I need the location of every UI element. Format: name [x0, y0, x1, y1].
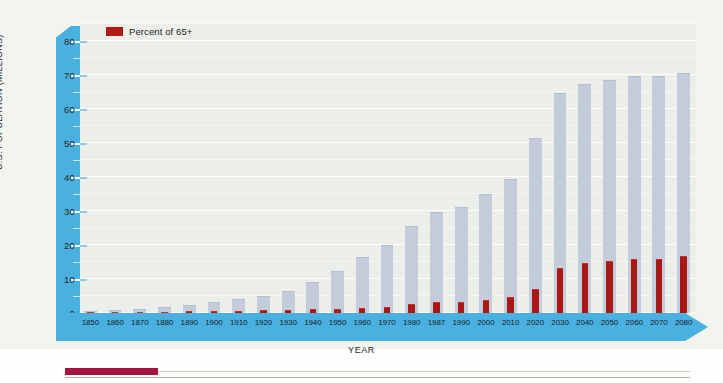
bar-group	[306, 24, 319, 313]
y-axis-tick-minor	[73, 296, 80, 297]
bar-percent-65plus	[483, 300, 489, 313]
bar-group	[430, 24, 443, 313]
y-axis-tick-label: 60	[64, 104, 75, 115]
y-axis-tick-outer	[80, 279, 87, 281]
x-axis-tick-label: 1950	[329, 318, 346, 327]
bar-percent-65plus	[211, 311, 217, 313]
bar-group	[133, 24, 146, 313]
bar-total	[405, 226, 418, 313]
x-axis-tick-label: 1960	[354, 318, 371, 327]
y-axis-tick-minor	[73, 262, 80, 263]
x-axis-tick-label: 1987	[428, 318, 445, 327]
bar-group	[257, 24, 270, 313]
bar-percent-65plus	[334, 309, 340, 313]
x-axis-tick-label: 1990	[452, 318, 469, 327]
x-axis-tick-label: 2080	[675, 318, 692, 327]
bar-group	[677, 24, 690, 313]
bar-total	[504, 179, 517, 313]
x-axis-tick-label: 1910	[230, 318, 247, 327]
legend-swatch-icon	[106, 27, 123, 36]
x-axis-tick-label: 1900	[205, 318, 222, 327]
bar-group	[554, 24, 567, 313]
y-axis-tick-label: 20	[64, 240, 75, 251]
bar-percent-65plus	[359, 308, 365, 313]
bar-group	[405, 24, 418, 313]
bar-percent-65plus	[532, 289, 538, 313]
legend-label: Percent of 65+	[129, 26, 192, 37]
x-axis-tick-label: 2020	[527, 318, 544, 327]
y-axis-tick-minor	[73, 92, 80, 93]
footer-hairline-light	[158, 371, 690, 372]
bar-total	[479, 194, 492, 313]
x-axis-tick-label: 1970	[378, 318, 395, 327]
y-axis-tick-minor	[73, 194, 80, 195]
x-axis-tick-label: 2000	[477, 318, 494, 327]
y-axis-tick-label: 80	[64, 36, 75, 47]
bar-group	[504, 24, 517, 313]
bar-group	[282, 24, 295, 313]
y-axis-tick-label: 50	[64, 138, 75, 149]
bar-total	[356, 257, 369, 313]
bar-group	[158, 24, 171, 313]
x-axis-tick-label: 1890	[181, 318, 198, 327]
bar-percent-65plus	[137, 312, 143, 314]
bar-percent-65plus	[235, 311, 241, 313]
y-axis-tick-outer	[80, 245, 87, 247]
bar-total	[430, 212, 443, 313]
bar-percent-65plus	[408, 304, 414, 313]
y-axis-tick-label: 30	[64, 206, 75, 217]
bar-group	[603, 24, 616, 313]
x-axis-tick-label: 2010	[502, 318, 519, 327]
bar-percent-65plus	[384, 307, 390, 313]
y-axis-title: U.S. POPULATION (MILLIONS)	[0, 34, 4, 170]
bar-group	[578, 24, 591, 313]
y-axis-tick-outer	[80, 41, 87, 43]
bar-percent-65plus	[186, 311, 192, 313]
bar-group	[232, 24, 245, 313]
x-axis-tick-label: 2030	[551, 318, 568, 327]
bar-percent-65plus	[433, 302, 439, 313]
x-axis-tick-label: 2040	[576, 318, 593, 327]
bar-total	[381, 245, 394, 313]
bar-percent-65plus	[310, 309, 316, 313]
x-axis-tick-label: 2050	[601, 318, 618, 327]
bar-group	[529, 24, 542, 313]
y-axis-tick-minor	[73, 24, 80, 25]
y-axis-tick-minor	[73, 160, 80, 161]
bar-total	[455, 207, 468, 313]
bar-group	[455, 24, 468, 313]
bar-group	[331, 24, 344, 313]
footer-accent-bar	[65, 368, 158, 375]
footer-hairline	[65, 377, 690, 378]
bar-series-container	[78, 24, 696, 313]
x-axis-tick-labels: 1850186018701880189019001910192019301940…	[78, 318, 696, 334]
x-axis-tick-label: 1980	[403, 318, 420, 327]
bar-percent-65plus	[260, 310, 266, 313]
bar-percent-65plus	[458, 302, 464, 313]
bar-group	[652, 24, 665, 313]
y-axis-tick-label: 40	[64, 172, 75, 183]
bar-percent-65plus	[606, 261, 612, 313]
bar-percent-65plus	[631, 259, 637, 313]
bar-group	[628, 24, 641, 313]
x-axis-tick-label: 1860	[106, 318, 123, 327]
y-axis-tick-minor	[73, 126, 80, 127]
y-axis-tick-minor	[73, 228, 80, 229]
y-axis-tick-outer	[80, 75, 87, 77]
y-axis-tick-label: 70	[64, 70, 75, 81]
bar-group	[356, 24, 369, 313]
x-axis-tick-label: 1940	[304, 318, 321, 327]
bar-group	[381, 24, 394, 313]
bar-group	[109, 24, 122, 313]
bar-percent-65plus	[112, 312, 118, 314]
bar-group	[183, 24, 196, 313]
x-axis-tick-label: 1850	[82, 318, 99, 327]
bar-group	[84, 24, 97, 313]
x-axis-tick-label: 1930	[279, 318, 296, 327]
y-axis-tick-label: 10	[64, 274, 75, 285]
bar-percent-65plus	[680, 256, 686, 313]
y-axis-tick-outer	[80, 211, 87, 213]
bar-percent-65plus	[507, 297, 513, 313]
bar-total	[331, 271, 344, 313]
bar-percent-65plus	[557, 268, 563, 313]
